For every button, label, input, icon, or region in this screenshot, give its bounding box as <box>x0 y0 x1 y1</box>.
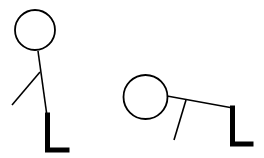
body <box>38 51 47 116</box>
arm <box>174 100 186 140</box>
body <box>167 96 233 108</box>
bent-figure <box>124 75 252 144</box>
standing-figure <box>12 10 67 150</box>
leg <box>233 108 252 144</box>
head <box>124 75 168 119</box>
leg <box>48 115 68 150</box>
stick-figures-canvas <box>0 0 264 158</box>
head <box>15 10 55 50</box>
arm <box>12 72 40 105</box>
